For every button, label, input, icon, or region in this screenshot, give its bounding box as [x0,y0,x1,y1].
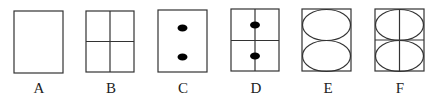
quadrant-ellipses-rectangle-icon [365,0,435,80]
figure-a: A [4,0,74,98]
ellipses-rectangle-icon [293,0,363,80]
empty-rectangle-icon [4,0,74,80]
figure-label: E [293,80,363,97]
two-dots-rectangle-icon [148,0,218,80]
figure-c: C [148,0,218,98]
figure-label: A [4,80,74,97]
quadrant-dots-rectangle-icon [221,0,291,80]
figure-b: B [76,0,146,98]
figure-label: C [148,80,218,97]
figure-d: D [221,0,291,98]
figure-label: D [221,80,291,97]
figure-label: B [76,80,146,97]
figure-label: F [365,80,435,97]
figure-f: F [365,0,435,98]
figure-e: E [293,0,363,98]
quadrant-rectangle-icon [76,0,146,80]
